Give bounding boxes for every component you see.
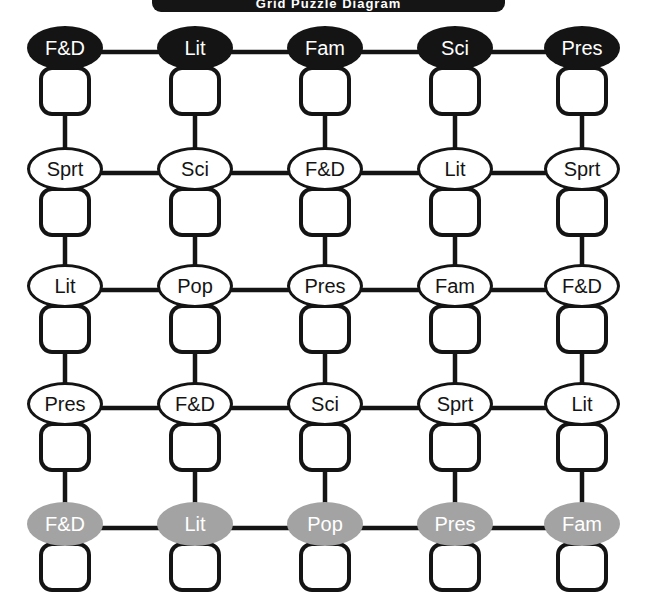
node-answer-box-r2-c0[interactable]	[39, 304, 91, 354]
node-label-ellipse-r0-c4[interactable]: Pres	[544, 26, 620, 70]
node-answer-box-r3-c3[interactable]	[429, 422, 481, 472]
grid-node-r4-c2[interactable]: Pop	[278, 502, 372, 610]
node-label-ellipse-r1-c4[interactable]: Sprt	[544, 147, 620, 191]
node-answer-box-r2-c1[interactable]	[169, 304, 221, 354]
node-answer-box-r1-c0[interactable]	[39, 187, 91, 237]
grid-node-r4-c1[interactable]: Lit	[148, 502, 242, 610]
node-label-ellipse-r2-c3[interactable]: Fam	[417, 264, 493, 308]
grid-node-r0-c1[interactable]: Lit	[148, 26, 242, 134]
grid-node-r1-c0[interactable]: Sprt	[18, 147, 112, 255]
node-label-ellipse-r0-c2[interactable]: Fam	[287, 26, 363, 70]
grid-node-r1-c4[interactable]: Sprt	[535, 147, 629, 255]
grid-node-r2-c2[interactable]: Pres	[278, 264, 372, 372]
grid-node-r2-c0[interactable]: Lit	[18, 264, 112, 372]
node-label-ellipse-r3-c1[interactable]: F&D	[157, 382, 233, 426]
node-answer-box-r4-c2[interactable]	[299, 542, 351, 592]
node-label-ellipse-r2-c4[interactable]: F&D	[544, 264, 620, 308]
grid-node-r3-c3[interactable]: Sprt	[408, 382, 502, 490]
node-label-ellipse-r2-c2[interactable]: Pres	[287, 264, 363, 308]
grid-node-r1-c3[interactable]: Lit	[408, 147, 502, 255]
node-answer-box-r4-c1[interactable]	[169, 542, 221, 592]
grid-node-r1-c2[interactable]: F&D	[278, 147, 372, 255]
node-answer-box-r1-c2[interactable]	[299, 187, 351, 237]
node-label-ellipse-r4-c4[interactable]: Fam	[544, 502, 620, 546]
grid-node-r4-c4[interactable]: Fam	[535, 502, 629, 610]
node-answer-box-r0-c4[interactable]	[556, 66, 608, 116]
grid-node-r0-c2[interactable]: Fam	[278, 26, 372, 134]
node-answer-box-r0-c0[interactable]	[39, 66, 91, 116]
grid-node-r0-c4[interactable]: Pres	[535, 26, 629, 134]
node-label-ellipse-r3-c2[interactable]: Sci	[287, 382, 363, 426]
node-label-ellipse-r4-c2[interactable]: Pop	[287, 502, 363, 546]
node-label-ellipse-r1-c3[interactable]: Lit	[417, 147, 493, 191]
grid-node-r2-c3[interactable]: Fam	[408, 264, 502, 372]
grid-node-r3-c4[interactable]: Lit	[535, 382, 629, 490]
node-label-ellipse-r3-c0[interactable]: Pres	[27, 382, 103, 426]
node-label-ellipse-r4-c1[interactable]: Lit	[157, 502, 233, 546]
node-label-ellipse-r2-c1[interactable]: Pop	[157, 264, 233, 308]
grid-node-r2-c1[interactable]: Pop	[148, 264, 242, 372]
grid-node-r1-c1[interactable]: Sci	[148, 147, 242, 255]
node-label-ellipse-r4-c3[interactable]: Pres	[417, 502, 493, 546]
node-answer-box-r1-c3[interactable]	[429, 187, 481, 237]
grid-node-r4-c3[interactable]: Pres	[408, 502, 502, 610]
node-answer-box-r2-c4[interactable]	[556, 304, 608, 354]
diagram-canvas: Grid Puzzle Diagram F&DLitFamSciPresSprt…	[0, 0, 647, 615]
node-label-ellipse-r1-c1[interactable]: Sci	[157, 147, 233, 191]
grid-node-r3-c0[interactable]: Pres	[18, 382, 112, 490]
node-answer-box-r4-c3[interactable]	[429, 542, 481, 592]
node-label-ellipse-r0-c3[interactable]: Sci	[417, 26, 493, 70]
node-answer-box-r3-c2[interactable]	[299, 422, 351, 472]
grid-node-r3-c2[interactable]: Sci	[278, 382, 372, 490]
node-label-ellipse-r3-c4[interactable]: Lit	[544, 382, 620, 426]
node-label-ellipse-r4-c0[interactable]: F&D	[27, 502, 103, 546]
node-answer-box-r3-c0[interactable]	[39, 422, 91, 472]
node-label-ellipse-r2-c0[interactable]: Lit	[27, 264, 103, 308]
node-answer-box-r2-c2[interactable]	[299, 304, 351, 354]
grid-node-r2-c4[interactable]: F&D	[535, 264, 629, 372]
node-answer-box-r2-c3[interactable]	[429, 304, 481, 354]
node-answer-box-r4-c4[interactable]	[556, 542, 608, 592]
grid-node-r4-c0[interactable]: F&D	[18, 502, 112, 610]
node-label-ellipse-r0-c1[interactable]: Lit	[157, 26, 233, 70]
node-answer-box-r3-c4[interactable]	[556, 422, 608, 472]
node-answer-box-r0-c2[interactable]	[299, 66, 351, 116]
node-answer-box-r1-c4[interactable]	[556, 187, 608, 237]
node-answer-box-r1-c1[interactable]	[169, 187, 221, 237]
node-answer-box-r4-c0[interactable]	[39, 542, 91, 592]
node-answer-box-r0-c3[interactable]	[429, 66, 481, 116]
grid-node-r0-c3[interactable]: Sci	[408, 26, 502, 134]
node-answer-box-r0-c1[interactable]	[169, 66, 221, 116]
node-answer-box-r3-c1[interactable]	[169, 422, 221, 472]
node-label-ellipse-r0-c0[interactable]: F&D	[27, 26, 103, 70]
grid-node-r0-c0[interactable]: F&D	[18, 26, 112, 134]
node-label-ellipse-r1-c2[interactable]: F&D	[287, 147, 363, 191]
node-label-ellipse-r1-c0[interactable]: Sprt	[27, 147, 103, 191]
node-label-ellipse-r3-c3[interactable]: Sprt	[417, 382, 493, 426]
grid-node-r3-c1[interactable]: F&D	[148, 382, 242, 490]
